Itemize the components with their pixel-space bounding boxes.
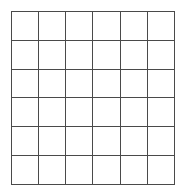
grid-cell[interactable] bbox=[147, 156, 174, 185]
grid-cell[interactable] bbox=[66, 40, 93, 69]
grid-row bbox=[12, 40, 175, 69]
grid-cell[interactable] bbox=[93, 127, 120, 156]
grid-row bbox=[12, 156, 175, 185]
grid-cell[interactable] bbox=[120, 156, 147, 185]
grid-cell[interactable] bbox=[39, 156, 66, 185]
page-canvas bbox=[0, 0, 180, 185]
grid-row bbox=[12, 127, 175, 156]
grid-cell[interactable] bbox=[39, 127, 66, 156]
blank-grid[interactable] bbox=[11, 11, 175, 185]
grid-cell[interactable] bbox=[147, 98, 174, 127]
grid-cell[interactable] bbox=[120, 127, 147, 156]
grid-cell[interactable] bbox=[66, 12, 93, 41]
grid-cell[interactable] bbox=[39, 12, 66, 41]
grid-row bbox=[12, 98, 175, 127]
grid-cell[interactable] bbox=[66, 98, 93, 127]
grid-cell[interactable] bbox=[66, 127, 93, 156]
grid-cell[interactable] bbox=[12, 156, 39, 185]
grid-cell[interactable] bbox=[39, 40, 66, 69]
grid-row bbox=[12, 69, 175, 98]
grid-body bbox=[12, 12, 175, 185]
grid-cell[interactable] bbox=[12, 12, 39, 41]
grid-cell[interactable] bbox=[93, 40, 120, 69]
grid-cell[interactable] bbox=[93, 156, 120, 185]
grid-cell[interactable] bbox=[93, 12, 120, 41]
grid-cell[interactable] bbox=[120, 98, 147, 127]
grid-cell[interactable] bbox=[12, 40, 39, 69]
grid-cell[interactable] bbox=[12, 69, 39, 98]
grid-cell[interactable] bbox=[39, 69, 66, 98]
grid-cell[interactable] bbox=[147, 69, 174, 98]
grid-cell[interactable] bbox=[39, 98, 66, 127]
grid-cell[interactable] bbox=[12, 98, 39, 127]
grid-cell[interactable] bbox=[12, 127, 39, 156]
grid-cell[interactable] bbox=[93, 69, 120, 98]
grid-cell[interactable] bbox=[147, 12, 174, 41]
grid-row bbox=[12, 12, 175, 41]
grid-cell[interactable] bbox=[93, 98, 120, 127]
grid-cell[interactable] bbox=[66, 156, 93, 185]
grid-cell[interactable] bbox=[120, 40, 147, 69]
grid-cell[interactable] bbox=[120, 12, 147, 41]
grid-cell[interactable] bbox=[66, 69, 93, 98]
grid-cell[interactable] bbox=[147, 127, 174, 156]
grid-cell[interactable] bbox=[147, 40, 174, 69]
grid-cell[interactable] bbox=[120, 69, 147, 98]
